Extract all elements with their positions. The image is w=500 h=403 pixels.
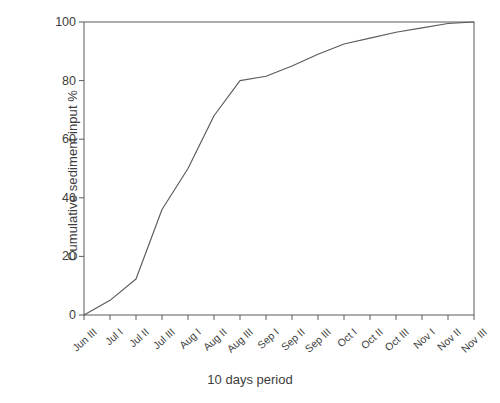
data-series-line — [84, 22, 474, 315]
x-tick-marks — [84, 315, 474, 320]
plot-border — [84, 22, 474, 315]
chart-figure: Cumulative sediment input % 0 20 40 60 8… — [0, 0, 500, 403]
plot-frame — [84, 22, 474, 315]
y-tick-label: 0 — [46, 309, 76, 322]
y-tick-label: 80 — [46, 75, 76, 88]
y-tick-label: 60 — [46, 133, 76, 146]
y-tick-label: 20 — [46, 250, 76, 263]
y-axis-tick-labels: 0 20 40 60 80 100 — [44, 0, 76, 403]
y-tick-label: 40 — [46, 192, 76, 205]
y-tick-marks — [79, 22, 84, 315]
y-tick-label: 100 — [46, 16, 76, 29]
x-axis-title: 10 days period — [0, 372, 500, 387]
